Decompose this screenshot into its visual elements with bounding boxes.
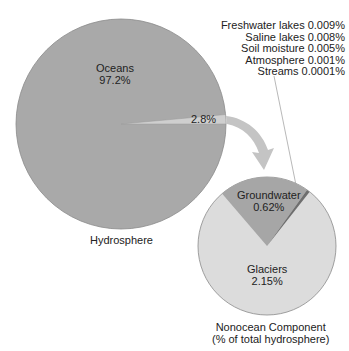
legend-streams: Streams 0.0001% [221,66,345,78]
legend-soil-moisture: Soil moisture 0.005% [221,43,345,55]
oceans-name: Oceans [96,62,134,74]
groundwater-name: Groundwater [237,189,301,201]
oceans-label: Oceans 97.2% [96,62,134,86]
oceans-value: 97.2% [96,74,134,86]
glaciers-label: Glaciers 2.15% [247,263,287,287]
minor-components-legend: Freshwater lakes 0.009% Saline lakes 0.0… [221,20,345,78]
nonocean-subtitle: (% of total hydrosphere) [212,333,329,345]
leader-line [274,76,298,195]
glaciers-value: 2.15% [247,275,287,287]
glaciers-name: Glaciers [247,263,287,275]
nonocean-value: 2.8% [191,113,216,125]
hydrosphere-title: Hydrosphere [90,234,153,246]
groundwater-value: 0.62% [237,201,301,213]
nonocean-title-block: Nonocean Component (% of total hydrosphe… [212,321,329,345]
nonocean-title: Nonocean Component [212,321,329,333]
legend-freshwater-lakes: Freshwater lakes 0.009% [221,20,345,32]
groundwater-label: Groundwater 0.62% [237,189,301,213]
arrow-icon [226,116,274,170]
